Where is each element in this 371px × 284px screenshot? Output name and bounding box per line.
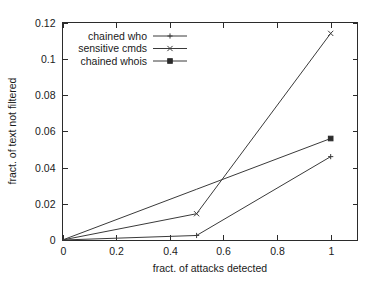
y-tick-label: 0 <box>50 234 56 246</box>
x-tick-label: 0.8 <box>270 245 285 257</box>
line-chart: 00.20.40.60.81 00.020.040.060.080.10.12 … <box>0 0 371 284</box>
x-axis-title: fract. of attacks detected <box>153 262 268 274</box>
legend-label: sensitive cmds <box>78 42 147 54</box>
chart-background <box>0 0 371 284</box>
y-tick-label: 0.06 <box>35 125 56 137</box>
x-tick-label: 0 <box>61 245 67 257</box>
data-point-marker <box>328 136 333 141</box>
legend-label: chained whois <box>80 55 147 67</box>
y-tick-label: 0.12 <box>35 17 56 29</box>
x-tick-label: 0.2 <box>109 245 124 257</box>
x-tick-label: 1 <box>329 245 335 257</box>
y-tick-label: 0.04 <box>35 162 56 174</box>
y-tick-label: 0.1 <box>41 53 56 65</box>
legend-sample-marker <box>168 59 173 64</box>
x-tick-label: 0.6 <box>216 245 231 257</box>
y-tick-label: 0.08 <box>35 89 56 101</box>
x-tick-label: 0.4 <box>163 245 178 257</box>
chart-figure: 00.20.40.60.81 00.020.040.060.080.10.12 … <box>0 0 371 284</box>
y-tick-label: 0.02 <box>35 198 56 210</box>
legend-label: chained who <box>88 30 147 42</box>
y-axis-title: fract. of text not filtered <box>6 77 18 184</box>
